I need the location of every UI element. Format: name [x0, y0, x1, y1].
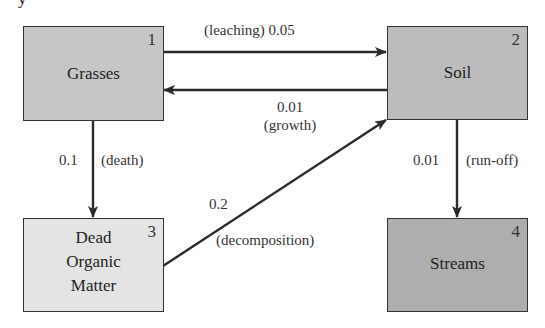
flow-process-decomposition: (decomposition): [216, 232, 314, 249]
compartment-label-line-1: Dead: [24, 228, 163, 248]
flow-rate-growth: 0.01: [240, 99, 340, 116]
flow-process-growth: (growth): [240, 117, 340, 134]
flow-rate-death: 0.1: [59, 152, 78, 169]
flow-rate-run-off: 0.01: [413, 152, 439, 169]
compartment-label: Soil: [388, 63, 527, 83]
flow-process-run-off: (run-off): [466, 152, 518, 169]
compartment-number: 2: [512, 30, 521, 50]
flow-label-leaching: (leaching) 0.05: [204, 22, 295, 39]
compartment-label-line-2: Organic: [24, 252, 163, 272]
compartment-label: Streams: [388, 254, 527, 274]
compartment-grasses: 1 Grasses: [23, 26, 164, 121]
compartment-dead-organic-matter: 3 Dead Organic Matter: [23, 218, 164, 312]
compartment-label: Grasses: [24, 64, 163, 84]
compartment-number: 1: [148, 30, 157, 50]
flow-process-death: (death): [101, 152, 143, 169]
compartment-streams: 4 Streams: [387, 218, 528, 312]
compartment-soil: 2 Soil: [387, 26, 528, 120]
compartment-label-line-3: Matter: [24, 276, 163, 296]
flow-rate-decomposition: 0.2: [209, 196, 228, 213]
compartment-number: 4: [512, 222, 521, 242]
